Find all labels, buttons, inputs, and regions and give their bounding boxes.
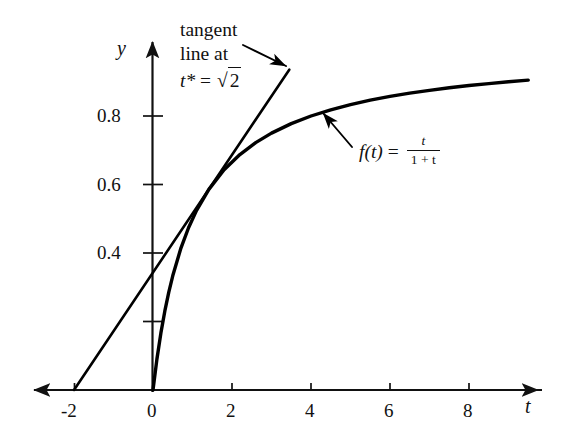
function-equals-sign: = <box>388 140 399 164</box>
y-tick-label-1: 0.6 <box>97 175 121 194</box>
tangent-annotation: tangent line at t* = √2 <box>180 18 241 92</box>
tangent-annotation-line1: tangent <box>180 18 241 42</box>
figure-canvas: y t 0.8 0.6 0.4 -2 0 2 4 6 8 tangent lin… <box>0 0 578 441</box>
sqrt-icon: √2 <box>216 67 241 93</box>
fraction-denominator: 1 + t <box>407 150 440 168</box>
tangent-equals-sign: = <box>200 70 211 91</box>
y-tick-label-2: 0.4 <box>97 243 121 262</box>
tangent-annotation-line3: t* = √2 <box>180 67 241 93</box>
x-axis-label: t <box>525 396 531 416</box>
x-tick-label-2: 2 <box>226 401 236 420</box>
function-fraction: t 1 + t <box>407 133 440 168</box>
x-tick-label-5: 8 <box>463 401 473 420</box>
x-tick-label-3: 4 <box>305 401 315 420</box>
x-tick-marks <box>75 379 470 390</box>
function-annotation: f (t) = t 1 + t <box>359 134 440 169</box>
x-tick-label-0: -2 <box>61 401 77 420</box>
function-callout-arrow <box>323 113 352 147</box>
tangent-callout-arrow <box>243 45 286 66</box>
y-tick-label-0: 0.8 <box>97 106 121 125</box>
tangent-point-symbol: t* <box>180 70 195 91</box>
plot-svg <box>0 0 578 441</box>
function-curve <box>153 80 528 390</box>
x-tick-label-4: 6 <box>384 401 394 420</box>
y-axis-label: y <box>117 38 126 58</box>
sqrt-radicand: 2 <box>228 67 242 93</box>
x-tick-label-1: 0 <box>147 401 157 420</box>
function-argument: (t) <box>364 140 382 164</box>
tangent-annotation-line2: line at <box>180 42 241 66</box>
fraction-numerator: t <box>407 133 440 150</box>
